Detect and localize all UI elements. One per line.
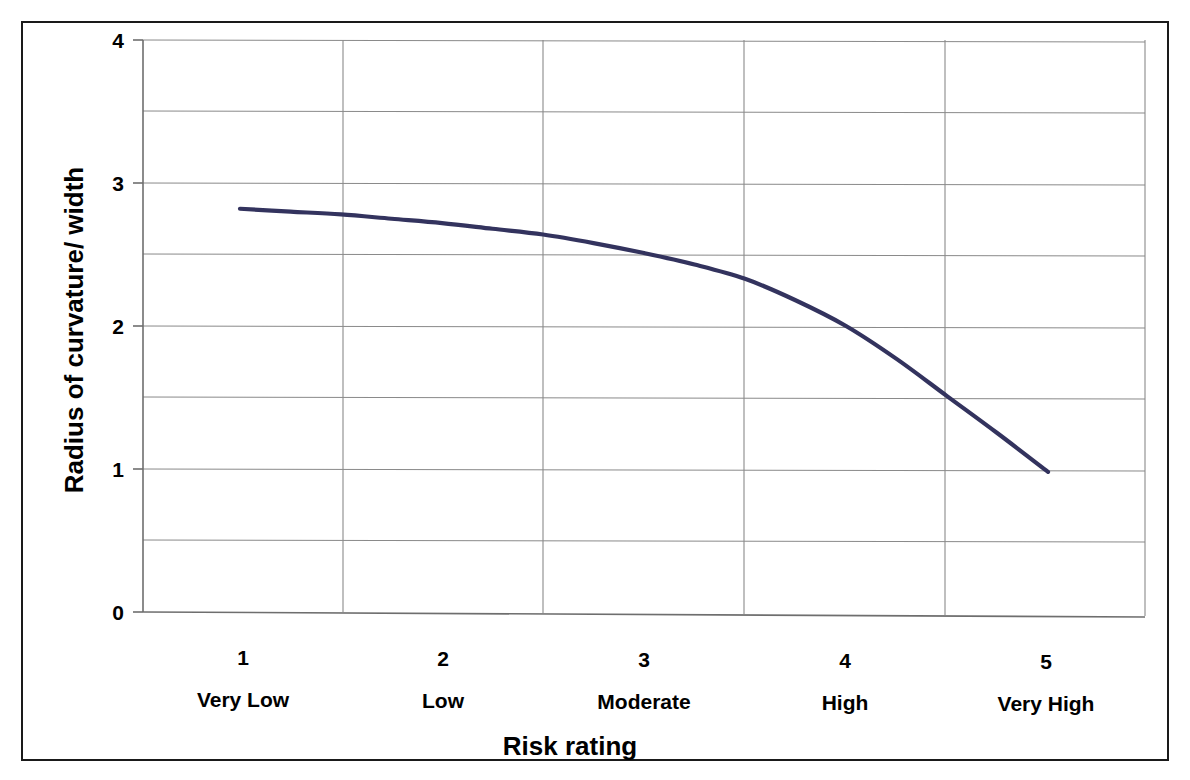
y-tick-label-1: 1 [112, 458, 124, 481]
x-tick-number-4: 4 [839, 649, 851, 672]
y-axis-ticks [133, 40, 143, 612]
figure-canvas: 4 3 2 1 0 1 2 3 4 5 Very Low Low Moderat… [0, 0, 1190, 780]
x-tick-number-5: 5 [1040, 650, 1052, 673]
x-axis-title: Risk rating [503, 731, 637, 761]
x-tick-label-moderate: Moderate [597, 690, 690, 713]
y-tick-label-2: 2 [112, 315, 124, 338]
y-tick-label-4: 4 [112, 29, 124, 52]
y-tick-label-0: 0 [112, 601, 124, 624]
y-tick-label-3: 3 [112, 172, 124, 195]
x-tick-number-1: 1 [237, 646, 249, 669]
y-axis-title: Radius of curvature/ width [59, 167, 89, 494]
x-tick-label-high: High [822, 691, 869, 714]
x-axis-line [143, 612, 1145, 617]
x-tick-number-3: 3 [638, 648, 650, 671]
line-chart: 4 3 2 1 0 1 2 3 4 5 Very Low Low Moderat… [0, 0, 1190, 780]
x-tick-label-low: Low [422, 689, 465, 712]
x-tick-number-2: 2 [437, 647, 449, 670]
x-tick-label-very-high: Very High [998, 692, 1095, 715]
x-tick-label-very-low: Very Low [197, 688, 290, 711]
